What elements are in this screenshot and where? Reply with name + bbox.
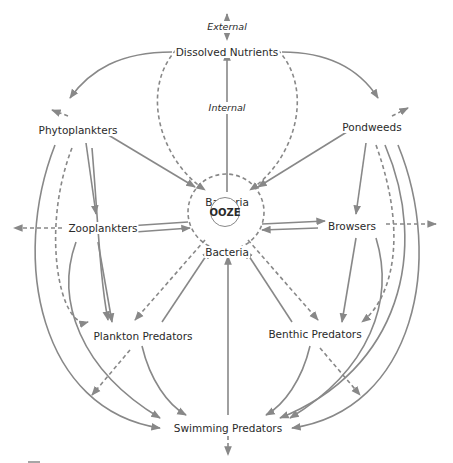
arrow-nutrients-phyto (70, 52, 172, 98)
node-bacteria-bottom: Bacteria (204, 246, 250, 258)
node-benthic-predators: Benthic Predators (267, 328, 362, 340)
external-label: External (206, 21, 248, 33)
node-ooze: OOZE (210, 197, 240, 227)
node-phytoplankters: Phytoplankters (38, 124, 119, 136)
node-swimming-predators: Swimming Predators (173, 422, 283, 434)
node-dissolved-nutrients: Dissolved Nutrients (175, 46, 280, 58)
internal-label: Internal (208, 102, 247, 114)
node-plankton-predators: Plankton Predators (92, 330, 193, 342)
node-pondweeds: Pondweeds (341, 121, 402, 133)
node-zooplankters: Zooplankters (67, 222, 138, 234)
ooze-label: OOZE (209, 207, 240, 218)
node-browsers: Browsers (327, 220, 377, 232)
